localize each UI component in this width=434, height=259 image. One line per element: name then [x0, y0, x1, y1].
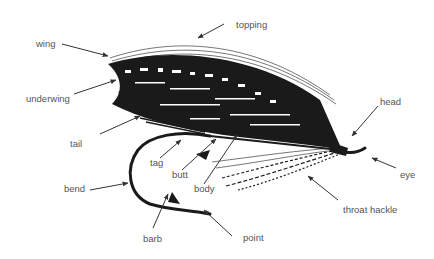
label-tail: tail — [70, 139, 82, 149]
arrow-barb — [153, 194, 168, 228]
label-head: head — [380, 97, 401, 107]
label-body: body — [194, 184, 215, 194]
arrow-wing — [62, 44, 108, 56]
throat-hackle — [212, 148, 340, 190]
label-wing: wing — [36, 39, 56, 49]
arrow-bend — [90, 183, 128, 190]
fly-illustration — [108, 46, 365, 214]
arrow-throat-hackle — [308, 176, 338, 200]
arrow-eye — [372, 158, 396, 168]
label-tag: tag — [150, 158, 163, 168]
label-bend: bend — [64, 184, 85, 194]
hook-barb — [168, 192, 180, 204]
arrow-butt — [182, 139, 216, 170]
label-eye: eye — [400, 170, 415, 180]
arrow-topping — [198, 24, 224, 38]
label-topping: topping — [236, 20, 267, 30]
label-throat-hackle: throat hackle — [343, 205, 397, 215]
arrow-tail — [100, 116, 140, 134]
fly-diagram — [0, 0, 434, 259]
arrow-head — [352, 106, 378, 136]
label-point: point — [243, 233, 264, 243]
label-barb: barb — [143, 234, 162, 244]
label-butt: butt — [172, 170, 188, 180]
label-underwing: underwing — [26, 94, 70, 104]
arrow-tag — [160, 140, 181, 158]
arrow-underwing — [74, 80, 116, 94]
arrow-point — [204, 210, 232, 236]
